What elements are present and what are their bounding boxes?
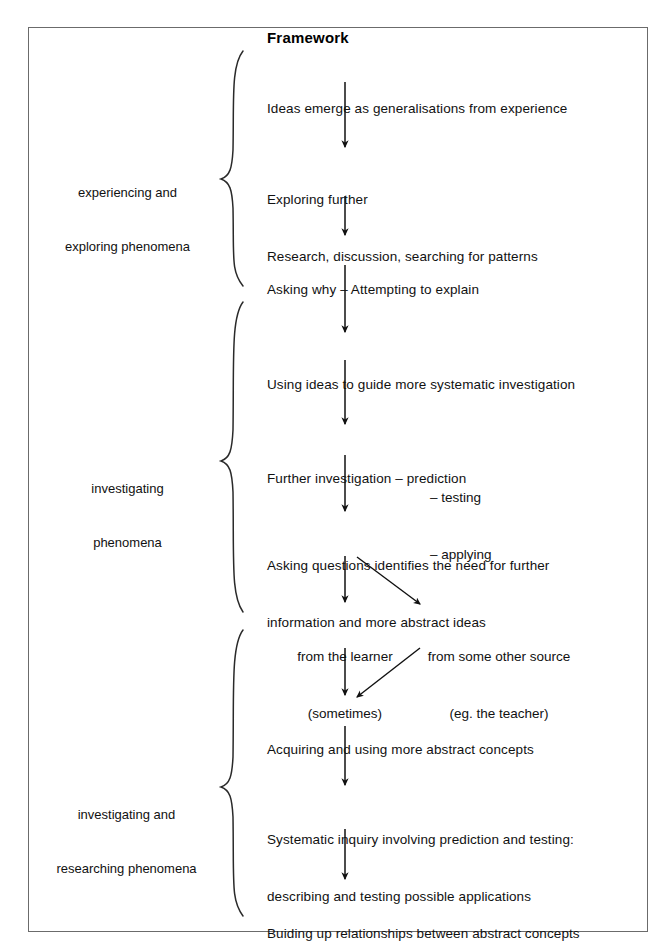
- branch-from-some-other-source-line1: from some other source: [414, 647, 584, 666]
- further-investigation-sublist-item-testing: – testing: [430, 488, 492, 507]
- flow-node-buiding-relationships: Buiding up relationships between abstrac…: [267, 886, 580, 943]
- stage-label-researching-line2: researching phenomena: [34, 860, 219, 878]
- stage-label-investigating-line1: investigating: [40, 480, 215, 498]
- stage-label-investigating-line2: phenomena: [40, 534, 215, 552]
- stage-label-researching-line1: investigating and: [34, 806, 219, 824]
- flow-node-acquiring-concepts-line1: Acquiring and using more abstract concep…: [267, 740, 534, 759]
- flow-node-using-ideas: Using ideas to guide more systematic inv…: [267, 337, 575, 413]
- flow-node-systematic-inquiry-line1: Systematic inquiry involving prediction …: [267, 830, 574, 849]
- flow-node-buiding-relationships-line1: Buiding up relationships between abstrac…: [267, 924, 580, 943]
- page-title: Framework: [267, 29, 349, 46]
- stage-label-researching: investigating and researching phenomena: [34, 770, 219, 896]
- flow-node-exploring-further-line1: Exploring further: [267, 190, 538, 209]
- flow-node-acquiring-concepts: Acquiring and using more abstract concep…: [267, 702, 534, 778]
- stage-label-investigating: investigating phenomena: [40, 444, 215, 570]
- flow-node-ideas-emerge: Ideas emerge as generalisations from exp…: [267, 61, 567, 137]
- flow-node-using-ideas-line1: Using ideas to guide more systematic inv…: [267, 375, 575, 394]
- stage-label-experiencing: experiencing and exploring phenomena: [40, 148, 215, 274]
- stage-label-experiencing-line2: exploring phenomena: [40, 238, 215, 256]
- flow-node-asking-why: Asking why – Attempting to explain: [267, 242, 479, 318]
- flow-node-asking-why-line1: Asking why – Attempting to explain: [267, 280, 479, 299]
- flow-node-asking-questions-line1: Asking questions identifies the need for…: [267, 556, 549, 575]
- stage-label-experiencing-line1: experiencing and: [40, 184, 215, 202]
- flow-node-ideas-emerge-line1: Ideas emerge as generalisations from exp…: [267, 99, 567, 118]
- branch-from-the-learner-line1: from the learner: [272, 647, 418, 666]
